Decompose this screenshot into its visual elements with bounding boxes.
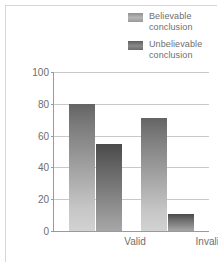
believable-swatch-icon bbox=[128, 13, 143, 22]
bar-believable-invalid bbox=[141, 118, 167, 231]
y-tick-label: 60 bbox=[38, 130, 49, 141]
y-tick-label: 0 bbox=[43, 226, 49, 237]
legend-item-believable: Believableconclusion bbox=[128, 11, 216, 32]
y-tick-mark bbox=[51, 199, 54, 200]
legend-label-believable: Believableconclusion bbox=[149, 11, 193, 32]
y-tick-label: 80 bbox=[38, 98, 49, 109]
x-tick-label-invalid: Invalid bbox=[196, 236, 218, 247]
bar-believable-valid bbox=[69, 104, 95, 231]
chart-legend: Believableconclusion Unbelievableconclus… bbox=[128, 11, 216, 67]
y-tick-label: 100 bbox=[32, 67, 49, 78]
y-tick-mark bbox=[51, 104, 54, 105]
bar-unbelievable-invalid bbox=[168, 214, 194, 231]
chart-figure: Believableconclusion Unbelievableconclus… bbox=[0, 0, 218, 262]
y-tick-label: 40 bbox=[38, 162, 49, 173]
bar-unbelievable-valid bbox=[96, 144, 122, 231]
y-tick-mark bbox=[51, 72, 54, 73]
unbelievable-swatch-icon bbox=[128, 41, 143, 50]
y-tick-mark bbox=[51, 136, 54, 137]
legend-item-unbelievable: Unbelievableconclusion bbox=[128, 39, 216, 60]
legend-label-believable-line2: conclusion bbox=[149, 22, 193, 32]
y-tick-mark bbox=[51, 231, 54, 232]
y-tick-mark bbox=[51, 167, 54, 168]
legend-label-unbelievable: Unbelievableconclusion bbox=[149, 39, 202, 60]
gridline bbox=[54, 72, 209, 73]
plot-area: 020406080100 bbox=[53, 72, 209, 232]
legend-label-believable-line1: Believable bbox=[149, 11, 192, 21]
legend-label-unbelievable-line2: conclusion bbox=[149, 50, 193, 60]
x-tick-label-valid: Valid bbox=[124, 236, 146, 247]
legend-label-unbelievable-line1: Unbelievable bbox=[149, 39, 202, 49]
y-tick-label: 20 bbox=[38, 194, 49, 205]
